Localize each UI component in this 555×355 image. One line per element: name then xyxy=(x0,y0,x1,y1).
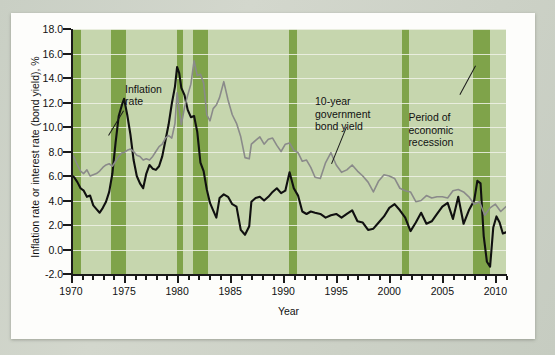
x-tick-1971 xyxy=(82,276,84,280)
x-tick-1976 xyxy=(135,276,137,280)
x-tick-1984 xyxy=(220,276,222,280)
y-tick-2 xyxy=(63,224,71,226)
x-tick-1977 xyxy=(145,276,147,280)
plot-area xyxy=(71,29,506,274)
x-tick-2011 xyxy=(506,276,508,280)
x-tick-1992 xyxy=(304,276,306,280)
x-tick-1997 xyxy=(357,276,359,280)
x-tick-1978 xyxy=(156,276,158,280)
x-tick-1985 xyxy=(230,276,232,283)
x-tick-2009 xyxy=(485,276,487,280)
y-tick--2 xyxy=(63,273,71,275)
plot-wrapper: 18.016.014.012.010.08.06.04.02.00.0-2.0 … xyxy=(11,13,535,339)
x-tick-label-1995: 1995 xyxy=(314,285,358,297)
x-tick-1988 xyxy=(262,276,264,280)
x-tick-label-2005: 2005 xyxy=(420,285,464,297)
x-tick-1993 xyxy=(315,276,317,280)
y-tick-0 xyxy=(63,249,71,251)
x-tick-2004 xyxy=(432,276,434,280)
x-tick-label-1980: 1980 xyxy=(155,285,199,297)
x-tick-1979 xyxy=(166,276,168,280)
x-tick-1981 xyxy=(188,276,190,280)
x-tick-1983 xyxy=(209,276,211,280)
y-tick-12 xyxy=(63,102,71,104)
x-tick-1995 xyxy=(336,276,338,283)
x-tick-1987 xyxy=(251,276,253,280)
x-tick-2008 xyxy=(474,276,476,280)
y-tick-8 xyxy=(63,151,71,153)
y-tick-label-18: 18.0 xyxy=(17,24,63,34)
x-tick-label-2010: 2010 xyxy=(473,285,517,297)
y-tick-16 xyxy=(63,53,71,55)
x-tick-1982 xyxy=(198,276,200,280)
x-tick-1973 xyxy=(103,276,105,280)
x-tick-2010 xyxy=(495,276,497,283)
y-axis-line xyxy=(71,29,73,274)
annotation-bond-yield: 10-year government bond yield xyxy=(315,95,370,133)
x-tick-label-1985: 1985 xyxy=(208,285,252,297)
annotation-recession: Period of economic recession xyxy=(408,111,453,149)
x-tick-2003 xyxy=(421,276,423,280)
y-tick-14 xyxy=(63,77,71,79)
x-tick-2005 xyxy=(442,276,444,283)
x-tick-1989 xyxy=(273,276,275,280)
x-tick-2001 xyxy=(400,276,402,280)
y-tick-6 xyxy=(63,175,71,177)
x-tick-1986 xyxy=(241,276,243,280)
x-tick-1980 xyxy=(177,276,179,283)
y-axis-title: Inflation rate or interest rate (bond yi… xyxy=(29,37,41,277)
x-tick-label-1970: 1970 xyxy=(49,285,93,297)
x-tick-1998 xyxy=(368,276,370,280)
x-tick-1990 xyxy=(283,276,285,283)
data-series xyxy=(71,29,506,274)
y-tick-4 xyxy=(63,200,71,202)
x-tick-2007 xyxy=(464,276,466,280)
annotation-inflation-rate: Inflation rate xyxy=(125,83,162,108)
figure-card: 18.016.014.012.010.08.06.04.02.00.0-2.0 … xyxy=(11,13,535,339)
x-tick-1999 xyxy=(379,276,381,280)
x-tick-label-1975: 1975 xyxy=(102,285,146,297)
y-tick-10 xyxy=(63,126,71,128)
x-tick-1972 xyxy=(92,276,94,280)
x-axis-title: Year xyxy=(71,305,506,317)
x-tick-2002 xyxy=(411,276,413,280)
x-tick-1970 xyxy=(71,276,73,283)
x-tick-2006 xyxy=(453,276,455,280)
x-tick-1975 xyxy=(124,276,126,283)
x-tick-label-1990: 1990 xyxy=(261,285,305,297)
figure-root: 18.016.014.012.010.08.06.04.02.00.0-2.0 … xyxy=(0,0,555,355)
x-tick-1996 xyxy=(347,276,349,280)
x-tick-1994 xyxy=(326,276,328,280)
x-tick-label-2000: 2000 xyxy=(367,285,411,297)
x-tick-2000 xyxy=(389,276,391,283)
y-tick-18 xyxy=(63,28,71,30)
x-tick-1974 xyxy=(113,276,115,280)
x-tick-1991 xyxy=(294,276,296,280)
